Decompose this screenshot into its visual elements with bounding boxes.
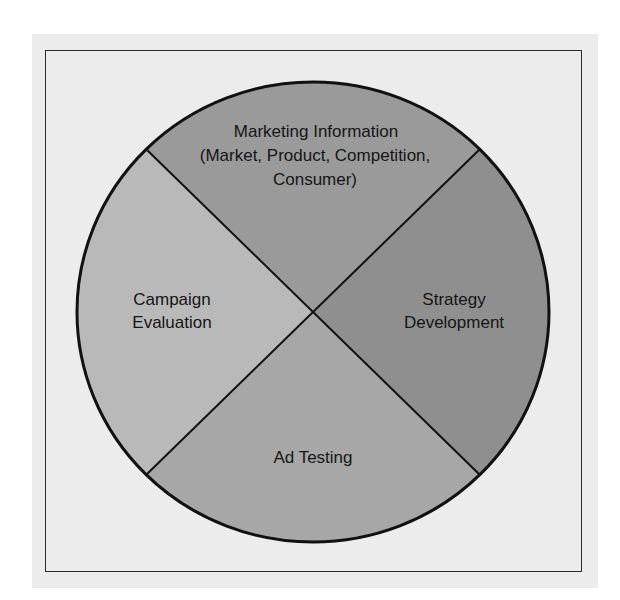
- label-line: Ad Testing: [273, 448, 352, 467]
- label-line: Evaluation: [132, 313, 211, 332]
- marketing-cycle-diagram: Marketing Information (Market, Product, …: [0, 0, 620, 600]
- label-line: Strategy: [422, 290, 486, 309]
- label-line: (Market, Product, Competition,: [200, 146, 431, 165]
- label-line: Marketing Information: [234, 122, 398, 141]
- label-ad-testing: Ad Testing: [273, 448, 352, 467]
- label-line: Consumer): [273, 170, 357, 189]
- label-line: Campaign: [133, 290, 211, 309]
- label-line: Development: [404, 313, 504, 332]
